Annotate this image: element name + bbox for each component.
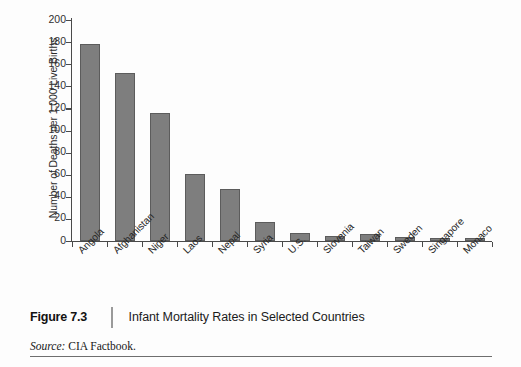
y-axis-tick-label: 60 (26, 167, 66, 179)
y-axis-tick-mark (66, 219, 72, 220)
x-axis-tick-mark (177, 242, 178, 247)
y-axis-tick-mark (66, 64, 72, 65)
y-axis-tick-mark (66, 86, 72, 87)
x-axis-tick-mark (317, 242, 318, 247)
y-axis-tick-label: 140 (26, 79, 66, 91)
figure-caption-title: Infant Mortality Rates in Selected Count… (129, 310, 365, 324)
y-axis-tick: 200 (0, 20, 78, 21)
y-axis-tick-mark (66, 175, 72, 176)
y-axis-tick: 20 (0, 219, 78, 220)
y-axis-tick: 140 (0, 86, 78, 87)
x-axis-tick-mark (107, 242, 108, 247)
caption-block: Figure 7.3 Infant Mortality Rates in Sel… (30, 305, 492, 352)
y-axis-tick-label: 0 (26, 234, 66, 246)
x-axis-tick-mark (387, 242, 388, 247)
y-axis-tick: 40 (0, 197, 78, 198)
y-axis-tick-label: 100 (26, 123, 66, 135)
x-axis-tick-mark (282, 242, 283, 247)
y-axis-tick: 80 (0, 153, 78, 154)
x-axis-tick-label: Singapore (426, 216, 466, 256)
y-axis-tick-label: 80 (26, 145, 66, 157)
caption-row: Figure 7.3 Infant Mortality Rates in Sel… (30, 305, 492, 329)
bar (115, 73, 135, 241)
source-line: Source: CIA Factbook. (30, 340, 492, 352)
x-axis-tick-mark (72, 242, 73, 247)
caption-divider (111, 307, 113, 328)
y-axis-tick-mark (66, 153, 72, 154)
y-axis-tick-mark (66, 131, 72, 132)
source-value: CIA Factbook. (68, 340, 136, 352)
y-axis-tick-mark (66, 197, 72, 198)
y-axis-tick-mark (66, 42, 72, 43)
y-axis-tick-label: 40 (26, 189, 66, 201)
bar-chart: Number of Deaths per 1,000 Live Births 0… (0, 0, 521, 300)
x-axis-tick-mark (142, 242, 143, 247)
y-axis-tick-label: 180 (26, 35, 66, 47)
bar (80, 44, 100, 241)
x-axis-tick-mark (492, 242, 493, 247)
y-axis-tick-mark (66, 20, 72, 21)
y-axis-tick: 160 (0, 64, 78, 65)
bar (185, 174, 205, 241)
x-axis-tick-mark (212, 242, 213, 247)
x-axis-tick-mark (457, 242, 458, 247)
figure-number: Figure 7.3 (30, 310, 87, 324)
bottom-rule (30, 356, 492, 357)
y-axis-tick-label: 20 (26, 211, 66, 223)
y-axis-tick: 180 (0, 42, 78, 43)
x-axis-tick-mark (247, 242, 248, 247)
figure-page: Number of Deaths per 1,000 Live Births 0… (0, 0, 521, 367)
y-axis-tick-label: 160 (26, 57, 66, 69)
y-axis-tick-label: 120 (26, 101, 66, 113)
y-axis-tick: 100 (0, 131, 78, 132)
x-axis-tick-mark (422, 242, 423, 247)
y-axis-tick-mark (66, 108, 72, 109)
y-axis-tick: 120 (0, 108, 78, 109)
y-axis-tick-label: 200 (26, 13, 66, 25)
y-axis-tick: 0 (0, 241, 78, 242)
x-axis-tick-mark (352, 242, 353, 247)
source-prefix: Source: (30, 340, 65, 352)
y-axis-tick: 60 (0, 175, 78, 176)
